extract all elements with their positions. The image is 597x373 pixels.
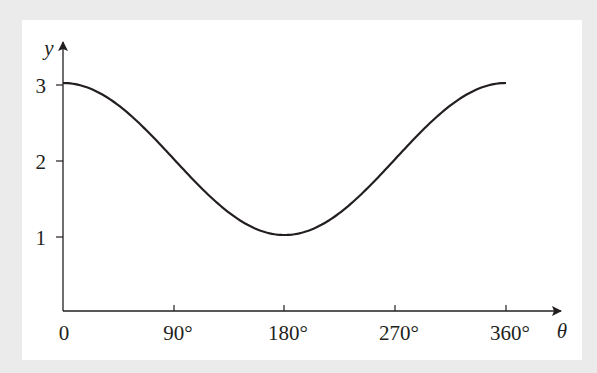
y-tick-label-3: 3	[36, 74, 47, 98]
chart-svg: 3 2 1 0 90° 180° 270° 360° y θ	[0, 0, 597, 373]
x-tick-label-360: 360°	[490, 321, 530, 345]
y-axis-label: y	[42, 36, 54, 60]
x-axis-label: θ	[557, 319, 567, 343]
x-tick-label-270: 270°	[379, 321, 419, 345]
x-tick-label-0: 0	[59, 321, 70, 345]
y-ticks	[56, 85, 63, 237]
y-tick-label-2: 2	[36, 150, 47, 174]
x-tick-label-180: 180°	[268, 321, 308, 345]
x-ticks	[174, 305, 506, 311]
x-tick-label-90: 90°	[163, 321, 192, 345]
cosine-curve	[63, 83, 506, 235]
y-tick-label-1: 1	[36, 226, 47, 250]
